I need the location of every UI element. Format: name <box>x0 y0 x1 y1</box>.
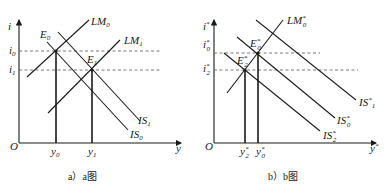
label-y0-star-b: y*0 <box>255 145 265 160</box>
y-axis-label-b: i* <box>203 20 210 32</box>
panel-a: i O y i0 i1 LM0 LM1 IS1 IS0 E0 E1 y0 y1 … <box>8 15 181 182</box>
point-e0-a <box>54 49 57 52</box>
curve-lm0-star-b <box>227 20 283 93</box>
label-e2-star-b: E*2 <box>236 54 248 69</box>
curve-lm0-a <box>27 20 89 77</box>
label-is0-star-b: IS*0 <box>336 114 351 129</box>
origin-label-a: O <box>10 140 18 152</box>
label-y1-a: y1 <box>87 145 96 159</box>
label-e0-star-b: E*0 <box>249 37 261 52</box>
label-i0-star-b: i*0 <box>203 38 211 53</box>
label-is0-a: IS0 <box>129 128 143 142</box>
point-e1-a <box>90 68 93 71</box>
x-axis-label-b: y* <box>369 142 379 154</box>
panel-b: i* O y* i*0 i*2 LM*0 IS*1 IS*0 IS*2 E*0 … <box>203 14 379 182</box>
label-e1-a: E1 <box>86 53 97 67</box>
label-y2-star-b: y*2 <box>239 145 249 160</box>
caption-b: b）b图 <box>268 171 298 182</box>
label-i2-star-b: i*2 <box>203 62 211 77</box>
label-i0-a: i0 <box>9 44 16 58</box>
x-axis-label-a: y <box>175 142 181 154</box>
curve-is0-star-b <box>237 37 335 118</box>
label-lm0-a: LM0 <box>90 15 110 29</box>
label-y0-a: y0 <box>50 145 60 159</box>
label-e0-a: E0 <box>39 28 51 42</box>
label-is2-star-b: IS*2 <box>322 129 337 144</box>
label-i1-a: i1 <box>9 63 16 77</box>
label-lm1-a: LM1 <box>123 34 143 48</box>
label-is1-a: IS1 <box>137 114 151 128</box>
is-lm-diagram: i O y i0 i1 LM0 LM1 IS1 IS0 E0 E1 y0 y1 … <box>0 0 387 190</box>
caption-a: a）a图 <box>68 171 97 182</box>
label-lm0-star-b: LM*0 <box>286 14 307 29</box>
y-axis-label-a: i <box>8 20 11 32</box>
origin-label-b: O <box>205 140 213 152</box>
label-is1-star-b: IS*1 <box>358 96 375 110</box>
curve-is1-star-b <box>256 20 356 100</box>
